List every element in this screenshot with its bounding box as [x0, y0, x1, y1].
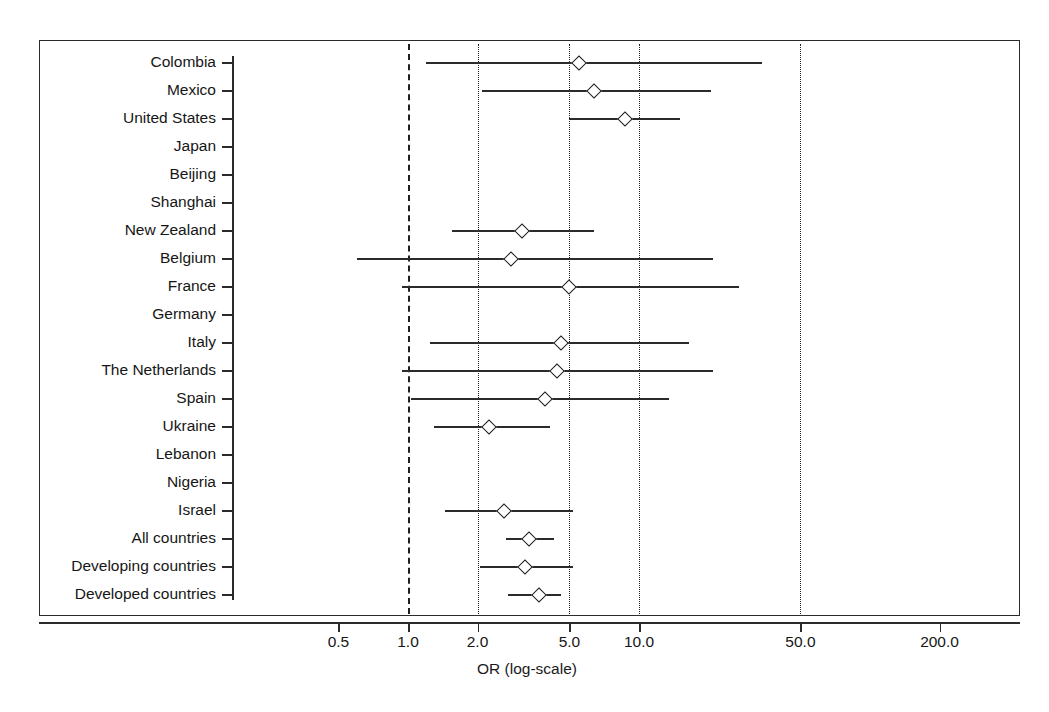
x-axis-tick-label: 0.5	[328, 634, 350, 650]
y-axis-tick	[222, 202, 232, 204]
x-axis-tick	[569, 623, 571, 632]
y-axis-tick	[222, 62, 232, 64]
x-axis-tick-label: 1.0	[397, 634, 419, 650]
x-axis-tick	[940, 623, 942, 632]
category-label: Germany	[152, 306, 216, 322]
category-label: The Netherlands	[101, 362, 216, 378]
x-axis-tick-label: 5.0	[559, 634, 581, 650]
x-axis-tick	[478, 623, 480, 632]
y-axis-tick	[222, 482, 232, 484]
y-axis-tick	[222, 370, 232, 372]
y-axis-spine	[232, 56, 234, 600]
x-axis-tick-label: 50.0	[785, 634, 815, 650]
category-label: Lebanon	[156, 446, 216, 462]
forest-plot-figure: ColombiaMexicoUnited StatesJapanBeijingS…	[0, 0, 1049, 712]
x-axis-tick-label: 200.0	[920, 634, 959, 650]
y-axis-tick	[222, 566, 232, 568]
category-label: Spain	[176, 390, 216, 406]
category-labels-column: ColombiaMexicoUnited StatesJapanBeijingS…	[0, 0, 216, 712]
y-axis-tick	[222, 426, 232, 428]
x-axis-tick	[800, 623, 802, 632]
category-label: Shanghai	[150, 194, 216, 210]
x-axis-tick-label: 10.0	[624, 634, 654, 650]
y-axis-tick	[222, 118, 232, 120]
y-axis-tick	[222, 90, 232, 92]
y-axis-tick	[222, 342, 232, 344]
category-label: Beijing	[169, 166, 216, 182]
category-label: Mexico	[167, 82, 216, 98]
category-label: All countries	[132, 530, 216, 546]
reference-line-1	[408, 44, 410, 614]
y-axis-tick	[222, 258, 232, 260]
category-label: Developing countries	[71, 558, 216, 574]
y-axis-tick	[222, 454, 232, 456]
category-label: Developed countries	[75, 586, 216, 602]
x-axis-tick	[338, 623, 340, 632]
x-axis-tick	[408, 623, 410, 632]
category-label: Ukraine	[163, 418, 216, 434]
category-label: France	[168, 278, 216, 294]
y-axis-tick	[222, 146, 232, 148]
x-axis-tick-label: 2.0	[467, 634, 489, 650]
x-axis-line	[39, 622, 1020, 624]
category-label: Belgium	[160, 250, 216, 266]
category-label: New Zealand	[125, 222, 216, 238]
y-axis-tick	[222, 230, 232, 232]
y-axis-tick	[222, 594, 232, 596]
y-axis-tick	[222, 538, 232, 540]
confidence-interval-line	[426, 62, 761, 64]
reference-line-10	[639, 44, 640, 614]
x-axis-title: OR (log-scale)	[477, 660, 577, 678]
y-axis-tick	[222, 398, 232, 400]
category-label: Israel	[178, 502, 216, 518]
reference-line-50	[800, 44, 801, 614]
category-label: Colombia	[151, 54, 216, 70]
y-axis-tick	[222, 174, 232, 176]
x-axis-tick	[639, 623, 641, 632]
confidence-interval-line	[357, 258, 714, 260]
y-axis-tick	[222, 314, 232, 316]
y-axis-tick	[222, 510, 232, 512]
category-label: Italy	[188, 334, 216, 350]
reference-line-5	[569, 44, 570, 614]
category-label: United States	[123, 110, 216, 126]
category-label: Japan	[174, 138, 216, 154]
category-label: Nigeria	[167, 474, 216, 490]
y-axis-tick	[222, 286, 232, 288]
reference-line-2	[478, 44, 479, 614]
